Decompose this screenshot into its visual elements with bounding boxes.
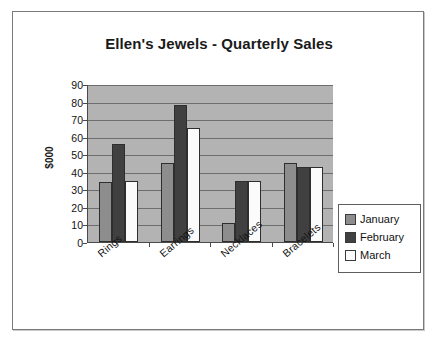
y-tick-mark [83,225,87,226]
y-tick-label: 10 [59,220,83,231]
y-tick-label: 90 [59,80,83,91]
legend-label-march: March [360,250,391,261]
legend-swatch-march [345,250,356,261]
legend-item-march: March [345,248,414,262]
chart-legend: January February March [338,204,421,273]
chart-frame: Ellen's Jewels - Quarterly Sales $000 90… [12,11,424,330]
x-tick-mark [333,243,334,247]
y-tick-mark [83,155,87,156]
bar-bracelets-january [284,163,297,242]
bar-rings-february [112,144,125,242]
y-tick-mark [83,85,87,86]
y-tick-mark [83,173,87,174]
y-tick-label: 50 [59,150,83,161]
y-tick-label: 20 [59,203,83,214]
chart-title: Ellen's Jewels - Quarterly Sales [13,35,425,52]
legend-swatch-february [345,232,356,243]
legend-swatch-january [345,214,356,225]
bar-group-rings [99,85,138,242]
y-tick-mark [83,208,87,209]
legend-item-february: February [345,230,414,244]
x-tick-mark [210,243,211,247]
x-tick-mark [149,243,150,247]
y-tick-mark [83,190,87,191]
x-tick-mark [272,243,273,247]
legend-item-january: January [345,212,414,226]
y-tick-label: 30 [59,185,83,196]
y-axis-title: $000 [44,133,55,183]
bar-earrings-february [174,105,187,242]
y-axis-tick-labels: 9080706050403020100 [55,85,83,242]
bar-rings-march [125,181,138,242]
y-tick-label: 40 [59,168,83,179]
plot-area [87,85,333,243]
y-tick-label: 80 [59,97,83,108]
bar-group-earrings [161,85,200,242]
legend-label-february: February [360,232,404,243]
bar-group-bracelets [284,85,323,242]
legend-label-january: January [360,214,399,225]
y-tick-mark [83,120,87,121]
bar-earrings-january [161,163,174,242]
y-tick-label: 60 [59,132,83,143]
y-tick-mark [83,243,87,244]
bar-rings-january [99,182,112,242]
y-tick-label: 70 [59,115,83,126]
y-tick-mark [83,138,87,139]
y-tick-label: 0 [59,238,83,249]
y-tick-mark [83,103,87,104]
